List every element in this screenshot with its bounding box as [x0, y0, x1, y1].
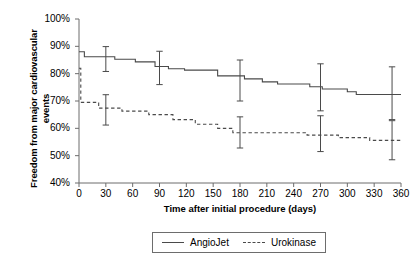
legend-item-angiojet: AngioJet	[162, 237, 229, 248]
x-axis-title: Time after initial procedure (days)	[79, 203, 401, 214]
plot-area	[0, 0, 418, 270]
error-bar-angiojet	[237, 60, 243, 101]
error-bar-urokinase	[389, 121, 395, 160]
legend-item-urokinase: Urokinase	[243, 237, 316, 248]
legend-label: AngioJet	[190, 237, 229, 248]
error-bar-angiojet	[103, 47, 109, 72]
chart-legend: AngioJetUrokinase	[152, 232, 326, 253]
legend-swatch-icon	[162, 242, 184, 243]
error-bar-angiojet	[156, 51, 162, 84]
legend-swatch-icon	[243, 242, 265, 243]
kaplan-meier-chart: Freedom from major cardiovascular events…	[0, 0, 418, 270]
error-bar-urokinase	[103, 95, 109, 125]
error-bar-angiojet	[389, 67, 395, 120]
legend-label: Urokinase	[271, 237, 316, 248]
error-bar-urokinase	[317, 116, 323, 152]
